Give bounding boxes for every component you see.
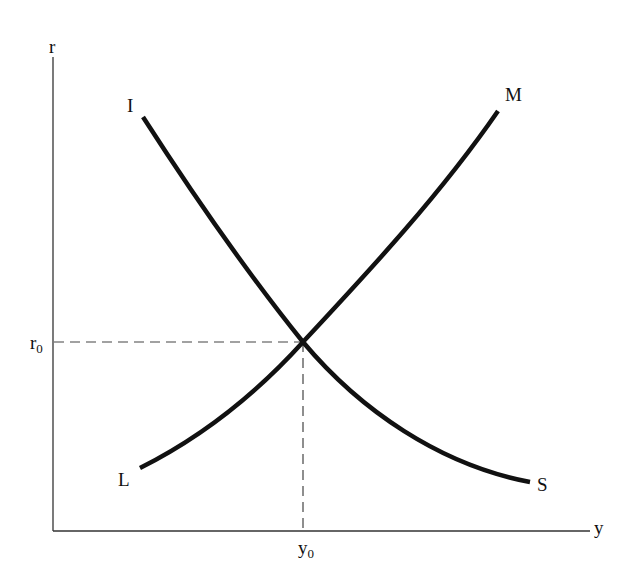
y0-label-base: y <box>298 537 308 558</box>
equilibrium-point <box>301 340 305 344</box>
r-axis-label: r <box>49 37 55 56</box>
is-curve-end-label: S <box>537 475 548 494</box>
is-lm-diagram <box>0 0 629 578</box>
r0-label: r0 <box>30 333 43 352</box>
r0-label-subscript: 0 <box>36 341 43 356</box>
y0-label-subscript: 0 <box>308 546 315 561</box>
lm-curve-start-label: L <box>118 470 130 489</box>
is-curve-start-label: I <box>127 96 133 115</box>
is-curve <box>143 117 530 482</box>
y0-label: y0 <box>298 538 314 557</box>
lm-curve-end-label: M <box>505 85 522 104</box>
y-axis-label: y <box>594 518 604 537</box>
lm-curve <box>140 111 498 468</box>
